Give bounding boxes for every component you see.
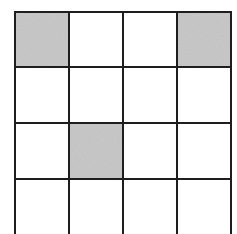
grid-cell [69, 12, 123, 67]
grid-cell [69, 67, 123, 123]
grid-cell [123, 179, 177, 234]
grid-diagram [0, 0, 237, 234]
grid-canvas [0, 0, 237, 234]
grid-cell [123, 12, 177, 67]
grid-cell [123, 123, 177, 179]
grid-cell [123, 67, 177, 123]
grid-cell-shaded [69, 123, 123, 179]
grid-cell [15, 123, 69, 179]
grid-cell [15, 67, 69, 123]
grid-cell [177, 179, 231, 234]
grid-cell [15, 179, 69, 234]
grid-cell [177, 67, 231, 123]
grid-cell [69, 179, 123, 234]
grid-cell [177, 123, 231, 179]
grid-cell-shaded [15, 12, 69, 67]
grid-cell-shaded [177, 12, 231, 67]
